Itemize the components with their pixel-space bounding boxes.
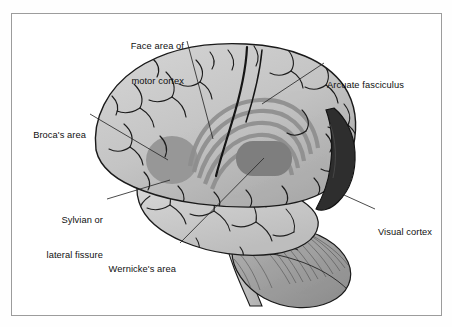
label-brocas-area: Broca's area	[10, 107, 86, 165]
leader-visual-cortex	[344, 195, 375, 209]
label-face-area-of-motor-cortex: Face area of motor cortex	[74, 18, 184, 111]
label-line-1: Face area of	[74, 41, 184, 53]
label-wernickes-area: Wernicke's area	[80, 241, 176, 299]
label-line-1: Visual cortex	[378, 227, 452, 239]
label-line-1: Sylvian or	[18, 215, 103, 227]
label-line-2: motor cortex	[74, 76, 184, 88]
label-visual-cortex: Visual cortex	[378, 204, 452, 262]
label-arcuate-fasciculus: Arcuate fasciculus	[327, 57, 447, 115]
label-line-1: Wernicke's area	[80, 264, 176, 276]
label-line-1: Broca's area	[10, 130, 86, 142]
label-line-1: Arcuate fasciculus	[327, 80, 447, 92]
brain-diagram-figure: Face area of motor cortex Arcuate fascic…	[0, 0, 452, 327]
